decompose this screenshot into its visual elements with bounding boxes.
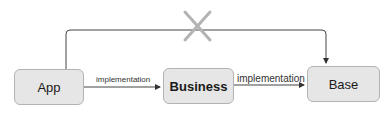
node-app-label: App xyxy=(37,80,60,95)
edge-label-app-business: implementation xyxy=(96,75,150,84)
edge-label-business-base: implementation xyxy=(237,73,305,84)
node-base-label: Base xyxy=(329,77,359,92)
cross-icon xyxy=(185,12,210,40)
node-base[interactable]: Base xyxy=(307,66,380,102)
node-business[interactable]: Business xyxy=(163,68,234,104)
node-business-label: Business xyxy=(170,79,228,94)
edge-app-to-base xyxy=(66,30,326,69)
node-app[interactable]: App xyxy=(14,69,84,105)
